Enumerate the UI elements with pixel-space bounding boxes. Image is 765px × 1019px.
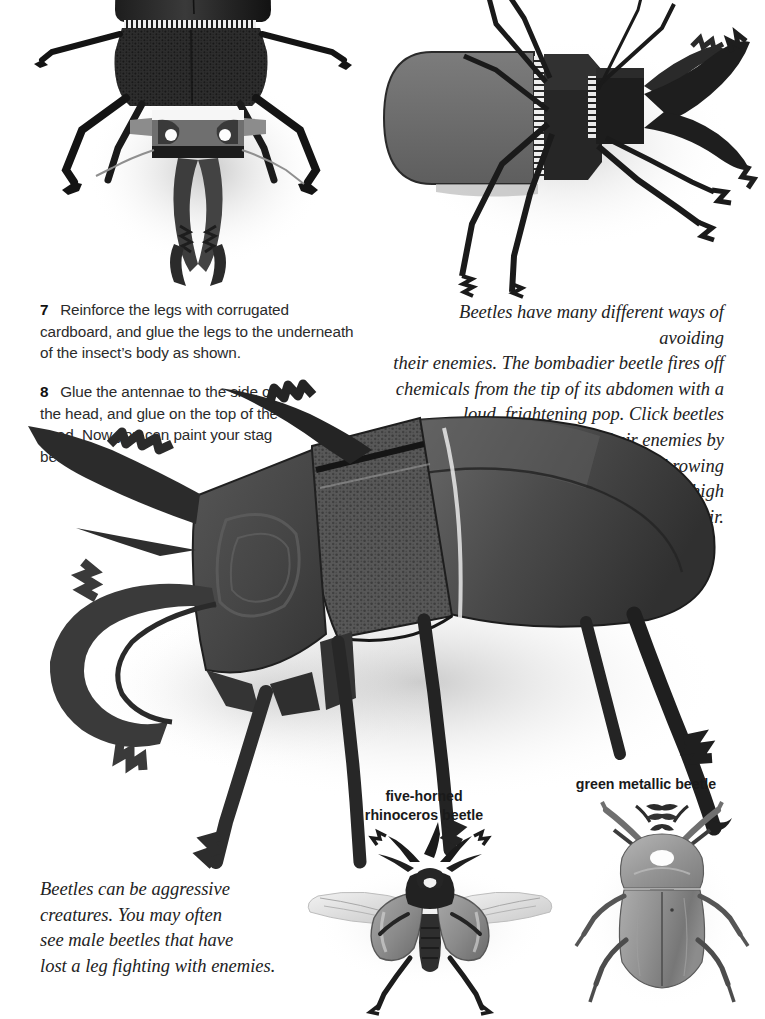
photo-model-top bbox=[392, 0, 765, 294]
caption-line-1: five-horned bbox=[358, 787, 490, 806]
sidebar-line: Beetles have many different ways of avoi… bbox=[392, 300, 724, 351]
caption-green-metallic-beetle: green metallic beetle bbox=[566, 775, 726, 794]
sidebar-line: creatures. You may often bbox=[40, 903, 320, 929]
sidebar-line: Beetles can be aggressive bbox=[40, 877, 320, 903]
photo-model-underside bbox=[38, 0, 368, 294]
sidebar-aggressive-creatures: Beetles can be aggressive creatures. You… bbox=[40, 877, 320, 979]
book-page: 7 Reinforce the legs with corrugated car… bbox=[0, 0, 765, 1019]
step-7-body: Reinforce the legs with corrugated cardb… bbox=[40, 301, 353, 361]
step-7-text: 7 Reinforce the legs with corrugated car… bbox=[40, 299, 358, 364]
photo-green-metallic-beetle bbox=[562, 800, 762, 1016]
sidebar-line: their enemies. The bombadier beetle fire… bbox=[392, 351, 724, 377]
caption-line-1: green metallic beetle bbox=[566, 775, 726, 794]
sidebar-line: lost a leg fighting with enemies. bbox=[40, 954, 320, 980]
step-7-number: 7 bbox=[40, 301, 56, 318]
photo-rhinoceros-beetle bbox=[300, 818, 560, 1018]
sidebar-line: see male beetles that have bbox=[40, 928, 320, 954]
